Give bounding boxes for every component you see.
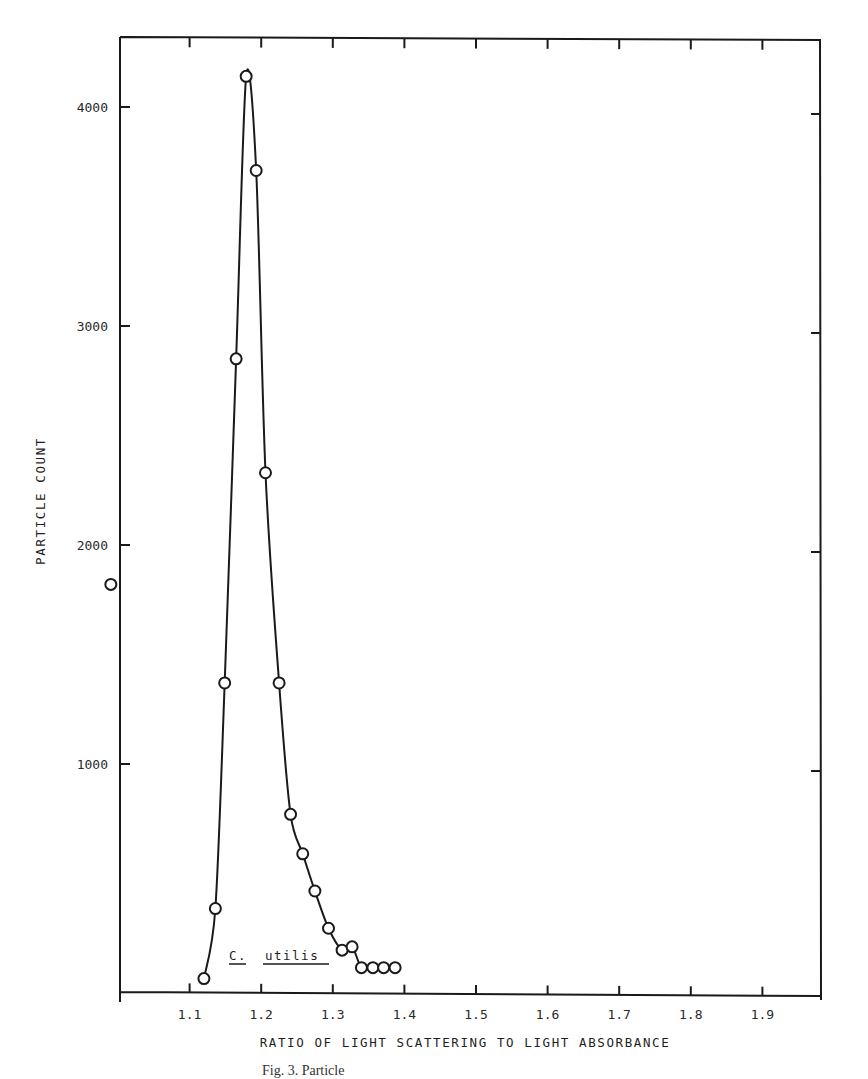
- data-point-marker: [210, 903, 221, 914]
- data-point-marker: [274, 677, 285, 688]
- data-point-marker: [219, 677, 230, 688]
- figure-caption: Fig. 3. Particle: [262, 1063, 344, 1079]
- data-point-marker: [390, 962, 401, 973]
- x-tick-label: 1.1: [178, 1007, 201, 1022]
- plot-frame: [120, 37, 821, 1002]
- data-point-marker: [367, 962, 378, 973]
- data-point-marker: [285, 809, 296, 820]
- x-axis-tick-labels: 1.11.21.31.41.51.61.71.81.9: [178, 1007, 774, 1022]
- x-tick-label: 1.3: [321, 1007, 344, 1022]
- x-tick-label: 1.4: [393, 1007, 417, 1022]
- x-axis-title: RATIO OF LIGHT SCATTERING TO LIGHT ABSOR…: [260, 1035, 671, 1050]
- data-markers: [105, 71, 400, 984]
- annotation-species: utilis: [265, 948, 319, 963]
- data-point-marker: [323, 923, 334, 934]
- species-annotation: C. utilis: [229, 948, 329, 964]
- data-point-marker: [198, 973, 209, 984]
- data-point-marker: [260, 467, 271, 478]
- y-axis-tick-labels: 1000200030004000: [77, 100, 108, 772]
- x-tick-label: 1.7: [607, 1007, 630, 1022]
- y-tick-label: 4000: [77, 100, 108, 115]
- y-axis-title: PARTICLE COUNT: [33, 437, 48, 565]
- x-tick-label: 1.2: [249, 1007, 272, 1022]
- data-point-marker: [356, 962, 367, 973]
- x-tick-label: 1.6: [536, 1007, 559, 1022]
- data-point-marker: [297, 848, 308, 859]
- y-tick-label: 2000: [77, 538, 108, 553]
- y-tick-label: 3000: [77, 319, 108, 334]
- x-tick-label: 1.5: [464, 1007, 487, 1022]
- annotation-genus: C.: [229, 948, 247, 963]
- x-tick-label: 1.8: [679, 1007, 702, 1022]
- y-axis-ticks: [120, 107, 130, 764]
- x-tick-label: 1.9: [751, 1007, 774, 1022]
- data-point-marker: [231, 353, 242, 364]
- y-tick-label: 1000: [77, 757, 108, 772]
- data-point-marker: [251, 165, 262, 176]
- data-point-marker: [378, 962, 389, 973]
- data-point-marker: [347, 941, 358, 952]
- data-line: [204, 69, 395, 978]
- series-line: [204, 69, 395, 978]
- data-point-marker: [241, 71, 252, 82]
- data-point-marker: [309, 886, 320, 897]
- isolated-point-marker: [105, 579, 116, 590]
